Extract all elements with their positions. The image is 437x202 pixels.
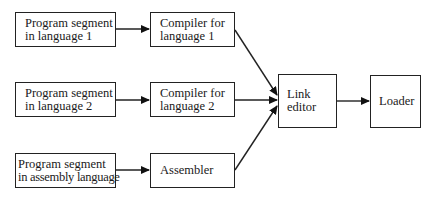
node-label-line: Program segment — [25, 17, 115, 30]
node-label-line: language 2 — [160, 100, 234, 113]
edge-comp1-link — [235, 30, 277, 95]
node-label-line: language 1 — [160, 30, 234, 43]
node-label-line: in assembly language — [18, 171, 115, 184]
node-link-editor: Link editor — [278, 74, 337, 128]
node-loader: Loader — [370, 75, 421, 128]
node-label-line: in language 2 — [25, 100, 115, 113]
node-label-line: in language 1 — [25, 30, 115, 43]
node-assembler: Assembler — [150, 153, 235, 188]
node-program-segment-language-1: Program segment in language 1 — [15, 12, 116, 47]
node-label-line: Compiler for — [160, 87, 234, 100]
node-label-line: Assembler — [160, 164, 234, 177]
edge-asm-link — [235, 106, 277, 170]
node-label-line: Program segment — [25, 87, 115, 100]
node-compiler-language-2: Compiler for language 2 — [150, 82, 235, 117]
node-label-line: editor — [287, 101, 336, 114]
node-label-line: Program segment — [18, 158, 115, 171]
node-label-line: Compiler for — [160, 17, 234, 30]
node-compiler-language-1: Compiler for language 1 — [150, 12, 235, 47]
node-program-segment-assembly: Program segment in assembly language — [15, 153, 116, 188]
node-program-segment-language-2: Program segment in language 2 — [15, 82, 116, 117]
node-label-line: Loader — [379, 95, 420, 108]
